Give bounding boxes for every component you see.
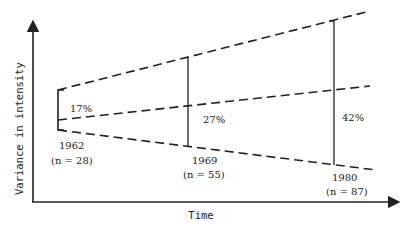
n-label-1962: (n = 28) <box>51 155 93 166</box>
x-axis-label: Time <box>188 209 213 221</box>
y-axis-label: Variance in intensity <box>13 62 25 195</box>
percent-label-1980: 42% <box>342 112 364 123</box>
year-label-1962: 1962 <box>59 140 84 151</box>
percent-label-1969: 27% <box>203 114 225 125</box>
upper-bound-dashed-line <box>58 11 370 90</box>
n-label-1969: (n = 55) <box>183 169 225 180</box>
year-label-1980: 1980 <box>332 172 357 183</box>
range-bracket-1962 <box>58 90 64 130</box>
year-label-1969: 1969 <box>192 155 217 166</box>
percent-label-1962: 17% <box>70 103 92 114</box>
n-label-1980: (n = 87) <box>326 186 368 197</box>
variance-diagram: 17% 27% 42% 1962 (n = 28) 1969 (n = 55) … <box>0 0 408 230</box>
